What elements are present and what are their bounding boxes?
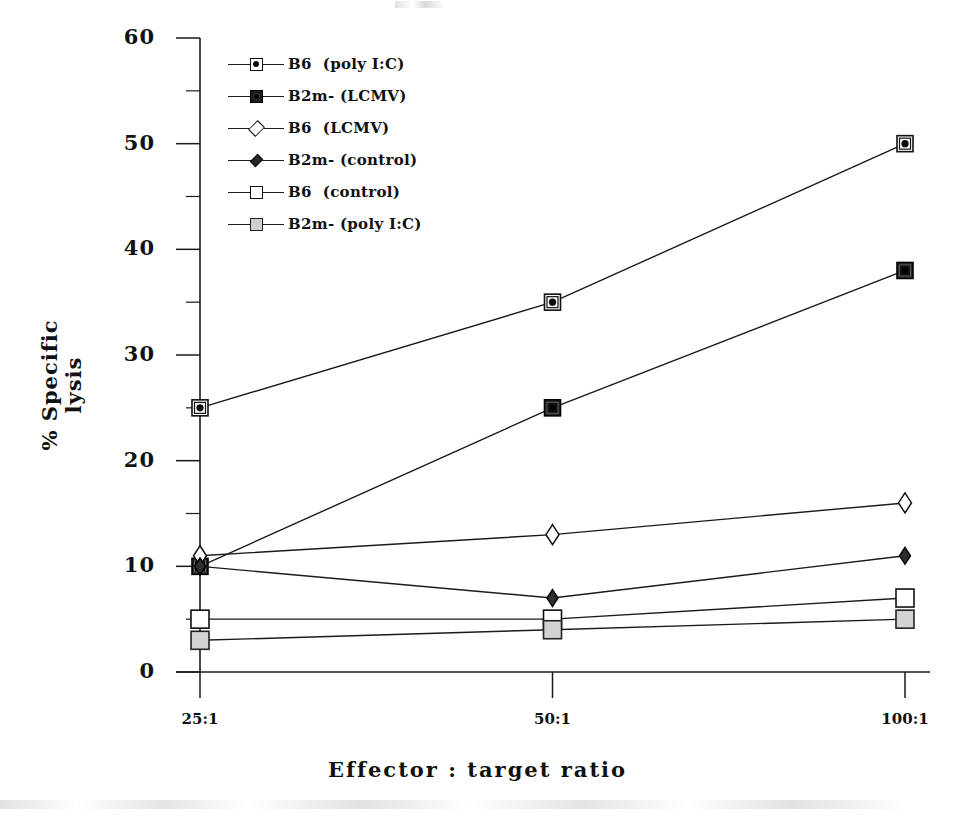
data-point-marker[interactable] <box>544 621 562 639</box>
legend-marker-open-diamond-icon <box>228 118 284 138</box>
data-point-marker[interactable] <box>896 589 914 607</box>
series-group <box>194 493 912 566</box>
data-point-marker[interactable] <box>897 136 913 152</box>
x-axis-label: Effector : target ratio <box>0 757 955 782</box>
x-tick-layer <box>200 672 905 698</box>
data-point-marker[interactable] <box>896 610 914 628</box>
legend-marker-gray-square-icon <box>228 214 284 234</box>
series-group <box>195 547 911 606</box>
data-point-marker[interactable] <box>545 400 561 416</box>
legend-item[interactable]: B2m- (control) <box>228 144 568 176</box>
legend-item-label: B6 (poly I:C) <box>288 55 405 73</box>
data-point-marker[interactable] <box>547 590 558 607</box>
data-point-marker[interactable] <box>545 294 561 310</box>
data-point-marker[interactable] <box>546 525 559 545</box>
data-point-marker[interactable] <box>897 262 913 278</box>
chart-legend: B6 (poly I:C) B2m- (LCMV) B6 (LCMV) B2m-… <box>228 48 568 240</box>
legend-item-label: B6 (LCMV) <box>288 119 389 137</box>
legend-item-label: B2m- (control) <box>288 151 417 169</box>
legend-item[interactable]: B6 (LCMV) <box>228 112 568 144</box>
y-tick-label: 20 <box>85 447 155 472</box>
data-point-marker[interactable] <box>191 610 209 628</box>
y-tick-label: 50 <box>85 130 155 155</box>
series-line <box>200 270 905 566</box>
data-point-marker[interactable] <box>192 400 208 416</box>
legend-marker-filled-square-icon <box>228 86 284 106</box>
legend-item[interactable]: B6 (poly I:C) <box>228 48 568 80</box>
legend-item[interactable]: B2m- (poly I:C) <box>228 208 568 240</box>
legend-marker-square-with-dot-icon <box>228 54 284 74</box>
data-point-marker[interactable] <box>899 493 912 513</box>
chart-figure: % Specific lysis 6050403020100 25:150:11… <box>0 0 955 819</box>
scan-artifact-top <box>395 1 445 8</box>
x-tick-label: 25:1 <box>182 710 219 728</box>
legend-item[interactable]: B6 (control) <box>228 176 568 208</box>
x-tick-label: 50:1 <box>534 710 571 728</box>
legend-item-label: B2m- (LCMV) <box>288 87 407 105</box>
data-point-marker[interactable] <box>191 631 209 649</box>
y-tick-label: 60 <box>85 24 155 49</box>
y-tick-label: 40 <box>85 235 155 260</box>
legend-marker-filled-diamond-icon <box>228 150 284 170</box>
legend-item-label: B6 (control) <box>288 183 400 201</box>
y-tick-label: 0 <box>85 658 155 683</box>
y-tick-label: 10 <box>85 552 155 577</box>
legend-item-label: B2m- (poly I:C) <box>288 215 422 233</box>
legend-marker-open-square-icon <box>228 182 284 202</box>
scan-artifact-bottom <box>0 800 955 809</box>
y-tick-layer <box>176 38 200 672</box>
data-point-marker[interactable] <box>900 547 911 564</box>
legend-item[interactable]: B2m- (LCMV) <box>228 80 568 112</box>
x-tick-label: 100:1 <box>881 710 928 728</box>
y-tick-label: 30 <box>85 341 155 366</box>
